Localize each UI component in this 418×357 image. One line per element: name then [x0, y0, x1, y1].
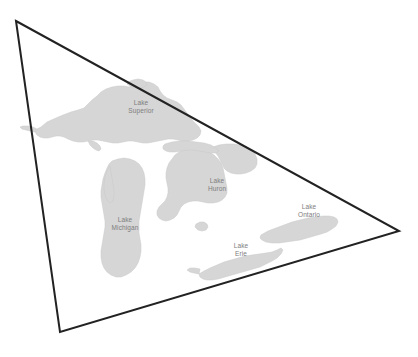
map-canvas — [0, 0, 418, 357]
lake-superior-west-spit-shape — [20, 126, 37, 132]
great-lakes-map-figure: Lake Superior Lake Huron Lake Michigan L… — [0, 0, 418, 357]
lake-st-clair-shape — [195, 222, 208, 231]
lake-ontario-shape — [260, 216, 338, 243]
lake-superior-keweenaw-shape — [88, 141, 101, 151]
lake-huron-shape — [157, 149, 227, 221]
lakes-layer — [20, 79, 338, 280]
lake-superior-shape — [35, 82, 201, 143]
lake-erie-west-tip-shape — [187, 268, 200, 274]
lake-erie-shape — [199, 248, 283, 280]
